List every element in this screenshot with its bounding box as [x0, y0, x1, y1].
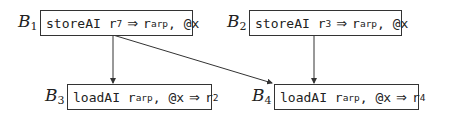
block-label-b1: B1 — [18, 11, 38, 33]
arrow-symbol: ⇒ — [122, 16, 143, 31]
opcode: storeAI — [255, 16, 310, 31]
block-label-b3: B3 — [45, 85, 65, 107]
edge-b1-b4 — [113, 35, 272, 83]
block-b2: storeAI r3⇒rarp, @x — [249, 10, 402, 36]
block-label-b2: B2 — [227, 11, 247, 33]
block-b1: storeAI r7⇒rarp, @x — [40, 10, 193, 36]
block-b4: loadAI rarp, @x⇒r4 — [274, 84, 419, 110]
opcode: storeAI — [46, 16, 101, 31]
arrow-symbol: ⇒ — [331, 16, 352, 31]
opcode: loadAI — [280, 90, 327, 105]
block-b3: loadAI rarp, @x⇒r2 — [67, 84, 212, 110]
opcode: loadAI — [73, 90, 120, 105]
arrow-symbol: ⇒ — [391, 90, 412, 105]
block-label-b4: B4 — [252, 85, 272, 107]
arrow-symbol: ⇒ — [184, 90, 205, 105]
